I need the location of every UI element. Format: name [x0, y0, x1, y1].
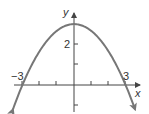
y-axis-label: y [62, 6, 70, 18]
tick-label-neg3: −3 [11, 70, 24, 82]
x-axis-label: x [134, 87, 141, 99]
labels-layer: y x 2 −3 3 [0, 0, 149, 114]
tick-label-3: 3 [123, 70, 129, 82]
tick-label-2: 2 [64, 38, 70, 50]
